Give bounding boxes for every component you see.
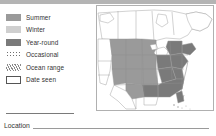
map-svg: [96, 5, 214, 117]
map-shade-summer-mountain-west: [112, 55, 126, 69]
map-legend: Summer Winter Year-round Occasional Ocea…: [6, 11, 92, 86]
map-shade-year-round-gulf-coast: [142, 85, 158, 97]
map-shade-summer-lower-midwest: [142, 69, 158, 85]
legend-item-ocean-range: Ocean range: [6, 61, 92, 74]
map-shade-summer-southwest-interior: [112, 69, 126, 85]
legend-swatch-occasional-icon: [6, 51, 21, 58]
legend-swatch-year-round-icon: [6, 39, 21, 46]
legend-label-date-seen: Date seen: [26, 76, 56, 83]
top-accent-bar: [0, 0, 216, 4]
legend-label-ocean-range: Ocean range: [26, 64, 64, 71]
legend-item-year-round: Year-round: [6, 36, 92, 49]
legend-item-winter: Winter: [6, 24, 92, 37]
legend-item-occasional: Occasional: [6, 49, 92, 62]
legend-label-winter: Winter: [26, 26, 45, 33]
map-region-gulf-water: [144, 97, 158, 105]
location-input[interactable]: [33, 127, 209, 129]
location-field[interactable]: Location: [4, 122, 209, 130]
legend-label-summer: Summer: [26, 14, 51, 21]
legend-swatch-date-seen-icon[interactable]: [6, 76, 21, 84]
legend-swatch-winter-icon: [6, 26, 21, 33]
legend-item-date-seen: Date seen: [6, 74, 92, 87]
legend-item-summer: Summer: [6, 11, 92, 24]
map-shade-year-round-ohio-valley: [156, 55, 172, 69]
legend-swatch-ocean-range-icon: [6, 64, 21, 71]
map-shade-summer-northwest: [110, 39, 126, 55]
north-america-range-map: [96, 5, 214, 117]
range-map-card: Summer Winter Year-round Occasional Ocea…: [0, 0, 216, 136]
legend-swatch-summer-icon: [6, 14, 21, 21]
legend-label-year-round: Year-round: [26, 39, 58, 46]
map-shade-summer-south-central: [126, 69, 142, 85]
legend-divider: [6, 113, 74, 114]
legend-label-occasional: Occasional: [26, 51, 59, 58]
map-shade-summer-north-plains: [126, 39, 142, 55]
location-label: Location: [4, 122, 30, 130]
map-shade-summer-central-plains: [126, 55, 142, 69]
map-shade-summer-midwest: [142, 55, 156, 69]
